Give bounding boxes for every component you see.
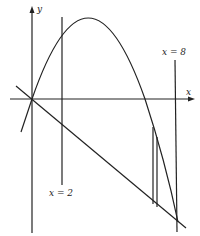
y-axis-arrow-icon bbox=[30, 6, 35, 13]
x-axis-label: x bbox=[186, 87, 191, 97]
slant-line bbox=[16, 86, 186, 228]
label-x-8: x = 8 bbox=[162, 47, 186, 57]
x-axis-arrow-icon bbox=[188, 97, 195, 102]
y-axis-label: y bbox=[36, 4, 43, 14]
area-diagram: y x x = 2 x = 8 bbox=[0, 0, 200, 236]
line-x-8 bbox=[175, 60, 177, 232]
parabola-curve bbox=[21, 18, 178, 222]
label-x-2: x = 2 bbox=[49, 188, 73, 198]
